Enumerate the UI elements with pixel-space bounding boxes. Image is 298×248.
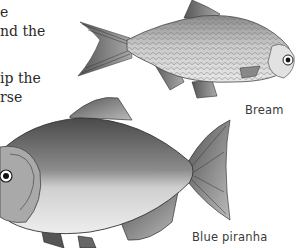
text-line: ip the: [0, 69, 41, 88]
bream-caption: Bream: [245, 103, 284, 117]
text-line: nd the: [0, 22, 45, 41]
blue-piranha-caption: Blue piranha: [192, 230, 267, 244]
blue-piranha-fish-illustration: [0, 92, 240, 248]
text-line: e: [0, 3, 8, 22]
bream-fish-illustration: [72, 0, 298, 100]
